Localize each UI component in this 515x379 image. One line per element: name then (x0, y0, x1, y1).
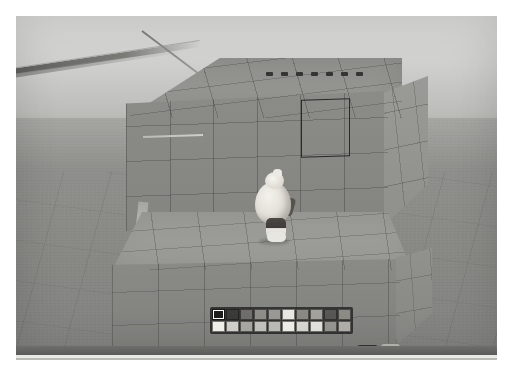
top-edge-voxel-mark (311, 72, 318, 76)
palette-swatch[interactable] (282, 309, 295, 320)
palette-swatch[interactable] (338, 321, 351, 332)
top-edge-voxel-mark (341, 72, 348, 76)
palette-swatch[interactable] (240, 321, 253, 332)
top-edge-voxel-mark (326, 72, 333, 76)
player-hair-tuft (273, 169, 282, 177)
game-viewport[interactable]: cheE••• (16, 16, 497, 355)
player-shoes (267, 232, 286, 242)
top-edge-voxel-mark (266, 72, 273, 76)
palette-swatch[interactable] (212, 321, 225, 332)
player-avatar[interactable] (251, 168, 295, 244)
palette-row (212, 309, 351, 320)
bottom-drop-shadow (16, 358, 497, 360)
top-edge-voxel-mark (281, 72, 288, 76)
palette-swatch[interactable] (296, 321, 309, 332)
top-edge-voxel-mark (296, 72, 303, 76)
palette-swatch[interactable] (212, 309, 225, 320)
palette-swatch[interactable] (254, 309, 267, 320)
palette-swatch[interactable] (324, 321, 337, 332)
palette-swatch[interactable] (226, 309, 239, 320)
block-selection-highlight[interactable] (301, 98, 350, 158)
palette-swatch[interactable] (254, 321, 267, 332)
palette-swatch[interactable] (310, 321, 323, 332)
palette-swatch[interactable] (240, 309, 253, 320)
palette-swatch[interactable] (268, 309, 281, 320)
palette-swatch[interactable] (296, 309, 309, 320)
color-palette[interactable] (210, 307, 353, 334)
palette-swatch[interactable] (226, 321, 239, 332)
bottom-status-bar (16, 346, 497, 355)
palette-row (212, 321, 351, 332)
screenshot-root: cheE••• (0, 0, 515, 379)
palette-swatch[interactable] (324, 309, 337, 320)
palette-swatch[interactable] (282, 321, 295, 332)
top-edge-voxel-mark (356, 72, 363, 76)
palette-swatch[interactable] (338, 309, 351, 320)
top-edge-voxel-marks (266, 72, 366, 82)
palette-swatch[interactable] (268, 321, 281, 332)
palette-swatch[interactable] (310, 309, 323, 320)
